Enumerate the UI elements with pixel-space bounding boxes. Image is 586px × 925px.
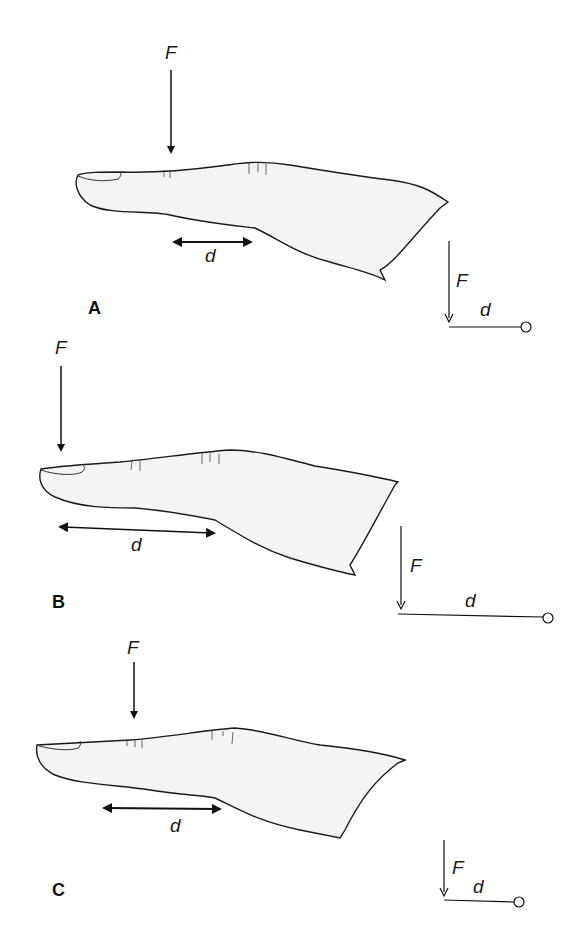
- distance-arrow-b: [63, 527, 211, 533]
- distance-arrow-c: [107, 808, 217, 809]
- force-label-c: F: [127, 637, 139, 659]
- inset-distance-label-a: d: [480, 299, 491, 321]
- force-label-b: F: [55, 337, 67, 359]
- distance-label-a: d: [205, 245, 216, 267]
- panel-b: [40, 366, 553, 623]
- inset-force-label-c: F: [452, 857, 464, 879]
- distance-label-b: d: [131, 534, 142, 556]
- distance-label-c: d: [170, 815, 181, 837]
- inset-force-label-a: F: [456, 270, 468, 292]
- inset-distance-label-c: d: [473, 876, 484, 898]
- panel-c: [37, 662, 524, 907]
- panel-label-a: A: [88, 298, 101, 319]
- panel-label-b: B: [52, 592, 65, 613]
- panel-a: [76, 70, 531, 332]
- finger-c: [37, 728, 405, 838]
- inset-distance-label-b: d: [465, 590, 476, 612]
- inset-force-label-b: F: [410, 555, 422, 577]
- force-label-a: F: [165, 42, 177, 64]
- finger-force-diagram: [0, 0, 586, 925]
- finger-b: [40, 450, 398, 575]
- finger-a: [76, 162, 448, 280]
- panel-label-c: C: [52, 880, 65, 901]
